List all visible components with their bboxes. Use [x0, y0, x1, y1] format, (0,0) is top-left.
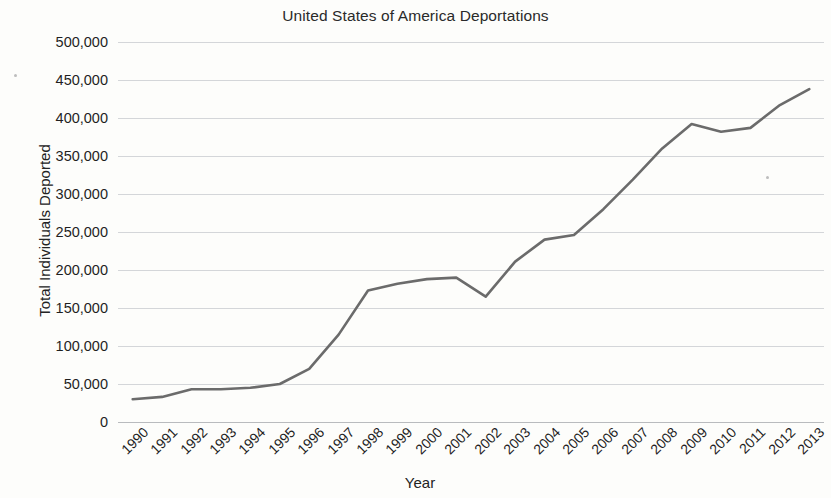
plot-area — [118, 42, 824, 422]
x-axis-tick-label: 2006 — [588, 424, 621, 457]
y-axis-tick-label: 350,000 — [8, 148, 108, 164]
chart-title: United States of America Deportations — [0, 7, 831, 25]
x-axis-tick-label: 2000 — [412, 424, 445, 457]
x-axis-tick-label: 2013 — [794, 424, 827, 457]
chart-container: United States of America Deportations To… — [0, 0, 831, 498]
y-axis-tick-label: 50,000 — [8, 376, 108, 392]
y-axis-tick-label: 0 — [8, 414, 108, 430]
y-axis-tick-label: 200,000 — [8, 262, 108, 278]
x-axis-tick-label: 2009 — [677, 424, 710, 457]
x-axis-tick-label: 2004 — [530, 424, 563, 457]
x-axis-tick-label: 2011 — [736, 424, 769, 457]
x-axis-tick-label: 2007 — [618, 424, 651, 457]
x-axis-tick-label: 1991 — [147, 424, 180, 457]
y-axis-tick-label: 250,000 — [8, 224, 108, 240]
x-axis-tick-label: 1996 — [294, 424, 327, 457]
x-axis-tick-label: 2012 — [765, 424, 798, 457]
gridline — [118, 422, 824, 423]
scan-artifact-speck — [766, 176, 769, 179]
x-axis-tick-label: 1995 — [265, 424, 298, 457]
x-axis-tick-label: 2003 — [500, 424, 533, 457]
x-axis-tick-label: 1994 — [235, 424, 268, 457]
y-axis-tick-labels: 500,000450,000400,000350,000300,000250,0… — [8, 0, 108, 498]
x-axis-tick-label: 2001 — [441, 424, 474, 457]
x-axis-tick-label: 2002 — [471, 424, 504, 457]
x-axis-tick-label: 2010 — [706, 424, 739, 457]
x-axis-tick-label: 2008 — [647, 424, 680, 457]
y-axis-tick-label: 300,000 — [8, 186, 108, 202]
y-axis-tick-label: 450,000 — [8, 72, 108, 88]
y-axis-tick-label: 400,000 — [8, 110, 108, 126]
x-axis-tick-label: 2005 — [559, 424, 592, 457]
x-axis-tick-label: 1990 — [118, 424, 151, 457]
x-axis-title: Year — [300, 474, 540, 491]
deportations-line-series — [118, 42, 824, 422]
x-axis-tick-label: 1998 — [353, 424, 386, 457]
series-line-path — [133, 89, 810, 399]
y-axis-tick-label: 500,000 — [8, 34, 108, 50]
y-axis-tick-label: 100,000 — [8, 338, 108, 354]
x-axis-tick-label: 1992 — [177, 424, 210, 457]
x-axis-tick-label: 1993 — [206, 424, 239, 457]
x-axis-tick-label: 1999 — [382, 424, 415, 457]
y-axis-tick-label: 150,000 — [8, 300, 108, 316]
x-axis-tick-label: 1997 — [324, 424, 357, 457]
scan-artifact-speck — [14, 74, 17, 77]
